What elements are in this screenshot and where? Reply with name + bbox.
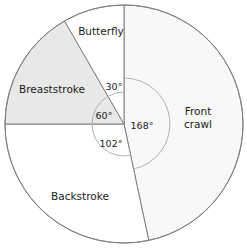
slice-label-butterfly: Butterfly: [78, 25, 124, 37]
pie-chart-svg: FrontcrawlBackstrokeBreaststrokeButterfl…: [0, 0, 247, 249]
pie-chart-figure: FrontcrawlBackstrokeBreaststrokeButterfl…: [0, 0, 247, 249]
slice-label-backstroke: Backstroke: [51, 190, 109, 202]
angle-label-backstroke: 102°: [100, 138, 123, 149]
angle-label-breaststroke: 60°: [96, 110, 113, 121]
slice-label-breaststroke: Breaststroke: [19, 83, 85, 95]
angle-label-butterfly: 30°: [106, 81, 123, 92]
slice-label-front-crawl: Frontcrawl: [184, 105, 212, 130]
angle-label-front-crawl: 168°: [131, 120, 154, 131]
pie-slice-backstroke: [5, 124, 149, 243]
